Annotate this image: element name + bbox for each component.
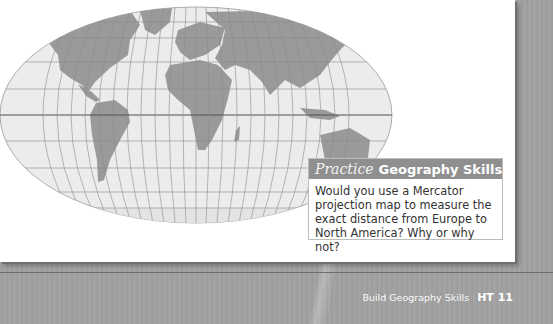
practice-header: Practice Geography Skills	[309, 159, 502, 179]
page-number: HT 11	[477, 291, 513, 304]
page-edge-line	[0, 272, 553, 273]
practice-question: Would you use a Mercator projection map …	[309, 179, 502, 259]
practice-title: Geography Skills	[379, 162, 503, 177]
footer-section-title: Build Geography Skills	[362, 292, 469, 303]
practice-label: Practice	[315, 161, 374, 177]
textbook-page: Practice Geography Skills Would you use …	[0, 0, 515, 262]
practice-geography-skills-box: Practice Geography Skills Would you use …	[308, 158, 503, 240]
page-footer: Build Geography Skills HT 11	[362, 291, 513, 304]
